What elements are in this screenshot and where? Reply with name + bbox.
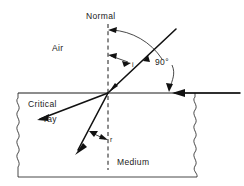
grazing-ray [172,89,240,97]
angle-i-label: i [132,61,134,68]
normal-label: Normal [86,11,116,21]
left-break-edge [17,93,19,177]
critical-ray-label-line1: Critical [28,99,57,109]
ninety-degree-label: 90° [155,57,169,67]
medium-label: Medium [117,157,149,167]
ninety-degree-leader [166,65,174,92]
angle-r-marker [89,131,108,140]
angle-i-marker [108,53,131,67]
physics-diagram: Normal Air Medium i r 90° Critical ray [0,0,244,186]
air-label: Air [52,43,63,53]
critical-ray-label-line2: ray [44,114,57,124]
angle-r-label: r [110,136,113,143]
diagram-canvas: Normal Air Medium i r 90° Critical ray [0,0,244,186]
right-break-edge [194,93,197,177]
refracted-ray [75,93,108,155]
